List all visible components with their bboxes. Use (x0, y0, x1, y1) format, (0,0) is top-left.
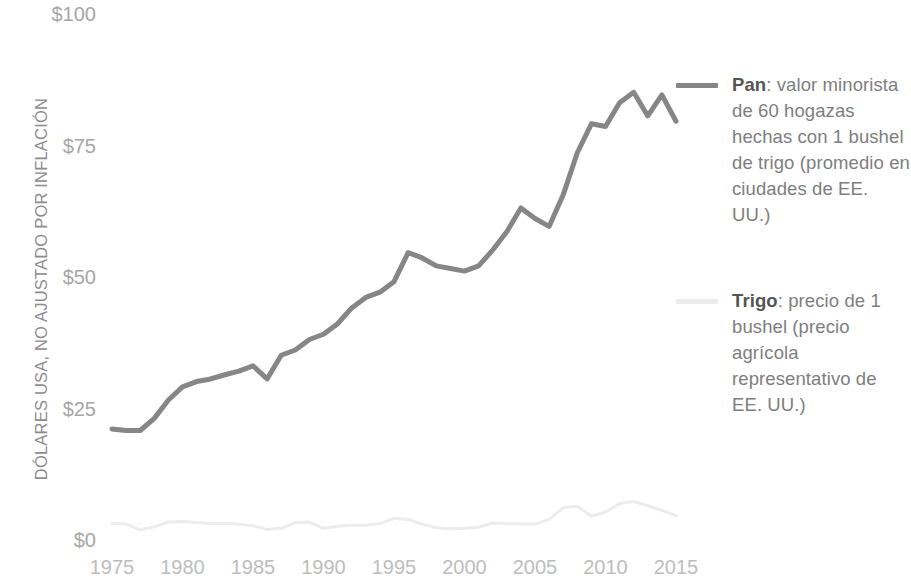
x-tick-label: 2005 (500, 557, 570, 577)
x-tick-label: 1995 (359, 557, 429, 577)
legend-label-pan: Pan: valor minorista de 60 hogazas hecha… (732, 72, 911, 228)
legend-series-name-trigo: Trigo (732, 290, 778, 311)
x-tick-label: 2010 (571, 557, 641, 577)
x-axis-ticks: 197519801985199019952000200520102015 (0, 557, 911, 584)
x-tick-label: 1990 (289, 557, 359, 577)
chart-container: DÓLARES USA, NO AJUSTADO POR INFLACIÓN $… (0, 0, 911, 584)
legend-series-name-pan: Pan (732, 74, 766, 95)
x-tick-label: 1985 (218, 557, 288, 577)
legend-item-trigo[interactable]: Trigo: precio de 1 bushel (precio agríco… (676, 288, 911, 418)
legend-swatch-trigo-icon (676, 299, 718, 304)
x-tick-label: 1975 (77, 557, 147, 577)
x-tick-label: 2015 (641, 557, 711, 577)
legend-swatch-pan-icon (676, 83, 718, 88)
chart-legend: Pan: valor minorista de 60 hogazas hecha… (676, 72, 911, 452)
series-line-trigo (112, 502, 676, 530)
x-tick-label: 1980 (148, 557, 218, 577)
x-tick-label: 2000 (430, 557, 500, 577)
legend-series-desc-pan: : valor minorista de 60 hogazas hechas c… (732, 74, 910, 225)
legend-item-pan[interactable]: Pan: valor minorista de 60 hogazas hecha… (676, 72, 911, 228)
series-line-pan (112, 92, 676, 430)
legend-label-trigo: Trigo: precio de 1 bushel (precio agríco… (732, 288, 911, 418)
